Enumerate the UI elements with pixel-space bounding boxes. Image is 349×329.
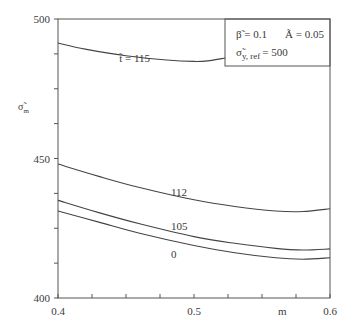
x-tick-label: 0.4 bbox=[51, 305, 65, 317]
legend-beta: β̃ = 0.1 bbox=[236, 28, 267, 40]
curve-3 bbox=[58, 211, 330, 259]
x-tick-label: 0.5 bbox=[187, 305, 201, 317]
curve-label: t̃ = 115 bbox=[119, 52, 151, 64]
chart-figure: 0.40.50.6400450500 t̃ = 1151121050 β̃ = … bbox=[0, 0, 349, 329]
y-tick-label: 450 bbox=[34, 153, 51, 165]
curve-label: 0 bbox=[171, 248, 177, 260]
axis-ticks: 0.40.50.6400450500 bbox=[34, 13, 338, 317]
curve-labels: t̃ = 1151121050 bbox=[119, 52, 188, 260]
legend-a: Ã = 0.05 bbox=[285, 28, 324, 40]
legend-box: β̃ = 0.1Ã = 0.05σ̃y, ref= 500 bbox=[225, 19, 330, 66]
data-curves bbox=[58, 43, 330, 259]
y-tick-label: 500 bbox=[34, 13, 51, 25]
x-axis-label: m bbox=[278, 305, 287, 317]
curve-label: 112 bbox=[171, 186, 187, 198]
curve-2 bbox=[58, 200, 330, 250]
curve-label: 105 bbox=[171, 220, 188, 232]
plot-frame bbox=[58, 19, 330, 298]
curve-1 bbox=[58, 164, 330, 212]
legend-frame bbox=[225, 19, 330, 66]
x-tick-label: 0.6 bbox=[323, 305, 337, 317]
legend-sigma-ref: σ̃y, ref= 500 bbox=[236, 46, 288, 61]
y-tick-label: 400 bbox=[34, 292, 51, 304]
y-axis-label: σ̃m bbox=[18, 101, 29, 115]
plot-border bbox=[58, 19, 330, 298]
